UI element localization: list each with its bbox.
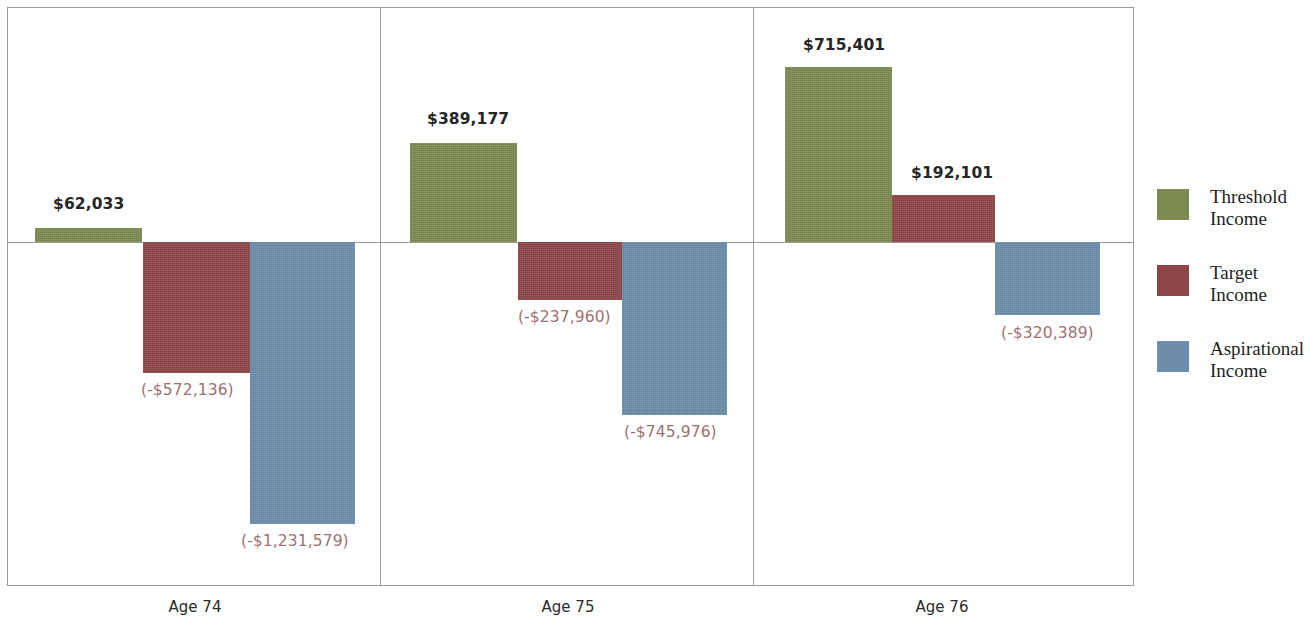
value-label-age74-threshold: $62,033 <box>53 195 124 213</box>
bar-age76-target[interactable] <box>892 195 995 242</box>
legend-item-target-income[interactable]: Target Income <box>1157 262 1267 306</box>
group-divider-1 <box>380 7 381 586</box>
bar-age76-threshold[interactable] <box>785 67 892 242</box>
bar-age74-threshold[interactable] <box>35 228 142 242</box>
value-label-age74-aspirational: (-$1,231,579) <box>241 532 349 550</box>
bar-age76-aspirational[interactable] <box>995 242 1100 315</box>
legend-swatch-icon-aspirational <box>1157 341 1189 372</box>
legend-swatch-icon-target <box>1157 265 1189 296</box>
group-divider-2 <box>753 7 754 586</box>
value-label-age75-aspirational: (-$745,976) <box>624 423 717 441</box>
bar-age74-target[interactable] <box>143 242 250 373</box>
value-label-age76-threshold: $715,401 <box>803 36 885 54</box>
value-label-age75-target: (-$237,960) <box>518 308 611 326</box>
legend-label-threshold-income: Threshold Income <box>1210 186 1287 230</box>
grouped-bar-chart: $62,033 (-$572,136) (-$1,231,579) $389,1… <box>0 0 1308 627</box>
value-label-age76-target: $192,101 <box>911 164 993 182</box>
value-label-age76-aspirational: (-$320,389) <box>1001 324 1094 342</box>
category-label-age-75: Age 75 <box>488 598 648 616</box>
legend-item-aspirational-income[interactable]: Aspirational Income <box>1157 338 1304 382</box>
value-label-age75-threshold: $389,177 <box>427 110 509 128</box>
legend-swatch-icon-threshold <box>1157 189 1189 220</box>
bar-age74-aspirational[interactable] <box>250 242 355 524</box>
legend-label-aspirational-income: Aspirational Income <box>1210 338 1304 382</box>
category-label-age-74: Age 74 <box>115 598 275 616</box>
bar-age75-threshold[interactable] <box>410 143 517 242</box>
bar-age75-target[interactable] <box>518 242 622 300</box>
category-label-age-76: Age 76 <box>862 598 1022 616</box>
legend-label-target-income: Target Income <box>1210 262 1267 306</box>
legend-item-threshold-income[interactable]: Threshold Income <box>1157 186 1287 230</box>
bar-age75-aspirational[interactable] <box>622 242 727 415</box>
value-label-age74-target: (-$572,136) <box>141 381 234 399</box>
